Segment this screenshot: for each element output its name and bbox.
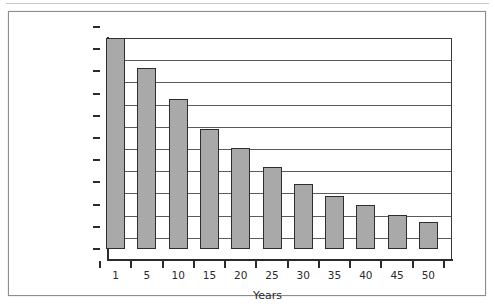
x-axis-tick-label: 5 xyxy=(144,270,151,281)
page-top-rule xyxy=(6,3,489,4)
x-axis-tick xyxy=(287,261,289,268)
x-axis-title-label: Years xyxy=(253,289,282,302)
chart-page: $0$10,000$20,000$30,000$40,000$50,000$60… xyxy=(0,0,495,306)
figure-frame: $0$10,000$20,000$30,000$40,000$50,000$60… xyxy=(8,11,486,296)
x-axis-ticks: 15101520253035404550 xyxy=(9,12,495,306)
x-axis-tick xyxy=(193,261,195,268)
x-axis-tick xyxy=(318,261,320,268)
x-axis-tick xyxy=(224,261,226,268)
x-axis-tick-label: 1 xyxy=(112,270,119,281)
x-axis-tick-label: 50 xyxy=(422,270,435,281)
x-axis-tick xyxy=(130,261,132,268)
x-axis-tick xyxy=(380,261,382,268)
x-axis-tick xyxy=(443,261,445,268)
x-axis-tick-label: 25 xyxy=(265,270,278,281)
x-axis-tick xyxy=(349,261,351,268)
x-axis-tick xyxy=(255,261,257,268)
x-axis-tick xyxy=(99,261,101,268)
x-axis-tick-label: 30 xyxy=(297,270,310,281)
x-axis-tick-label: 15 xyxy=(203,270,216,281)
x-axis-tick-label: 45 xyxy=(390,270,403,281)
x-axis-tick-label: 35 xyxy=(328,270,341,281)
x-axis-title: Years xyxy=(9,289,495,302)
x-axis-tick xyxy=(412,261,414,268)
x-axis-tick-label: 40 xyxy=(359,270,372,281)
x-axis-tick xyxy=(162,261,164,268)
x-axis-tick-label: 10 xyxy=(171,270,184,281)
x-axis-tick-label: 20 xyxy=(234,270,247,281)
